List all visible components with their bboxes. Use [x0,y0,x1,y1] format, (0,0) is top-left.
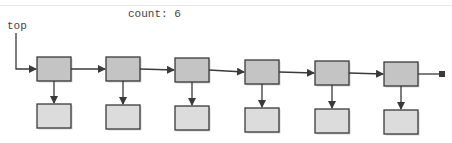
top-pointer-line [16,33,36,69]
item-box [245,108,279,132]
next-pointer-arrow [140,69,174,70]
node-box [106,57,140,81]
stack-node [106,57,174,131]
item-box [384,110,418,134]
next-pointer-arrow [279,72,314,73]
top-pointer-arrow [16,33,36,69]
item-box [37,104,71,128]
next-pointer-arrow [349,73,383,74]
stack-node [315,61,383,135]
node-box [37,57,71,81]
node-box [384,62,418,86]
stack-node [384,62,445,136]
node-box [315,61,349,85]
stack-node [37,57,105,130]
nodes-layer [37,57,445,136]
next-pointer-arrow [209,70,244,72]
item-box [175,106,209,130]
stack-node [175,58,244,132]
stack-node [245,60,314,134]
item-box [106,105,140,129]
null-terminator-icon [439,71,445,77]
node-box [245,60,279,84]
node-box [175,58,209,82]
linked-stack-diagram [0,0,452,143]
item-box [315,109,349,133]
